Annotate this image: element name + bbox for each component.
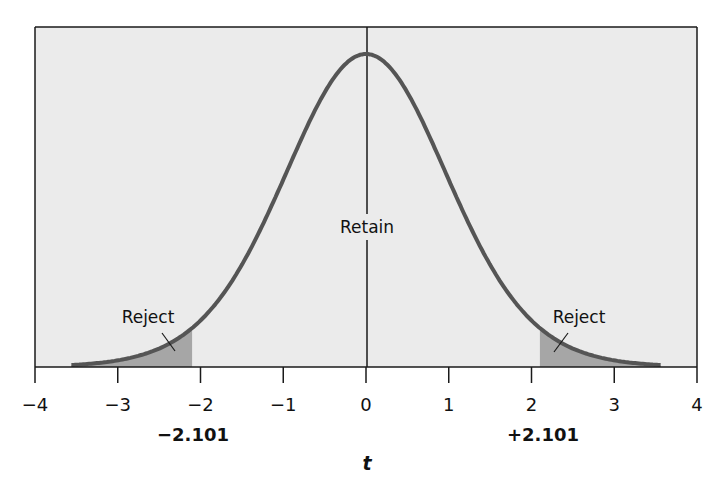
x-tick-label: −3 <box>104 394 131 415</box>
x-tick-label: −2 <box>187 394 214 415</box>
x-axis-ticks: −4−3−2−101234 <box>22 367 703 415</box>
x-tick-label: 2 <box>526 394 537 415</box>
x-tick-label: 3 <box>609 394 620 415</box>
reject-label-left: Reject <box>122 307 175 327</box>
x-axis-title: t <box>362 452 372 474</box>
x-tick-label: 1 <box>443 394 454 415</box>
x-tick-label: −4 <box>22 394 49 415</box>
x-tick-label: −1 <box>270 394 297 415</box>
retain-label: Retain <box>340 217 394 237</box>
x-tick-label: 4 <box>691 394 702 415</box>
critical-value-right: +2.101 <box>507 424 579 445</box>
t-distribution-chart: −4−3−2−101234 Retain Reject Reject −2.10… <box>0 0 727 492</box>
x-tick-label: 0 <box>360 394 371 415</box>
critical-value-left: −2.101 <box>157 424 229 445</box>
reject-label-right: Reject <box>553 307 606 327</box>
